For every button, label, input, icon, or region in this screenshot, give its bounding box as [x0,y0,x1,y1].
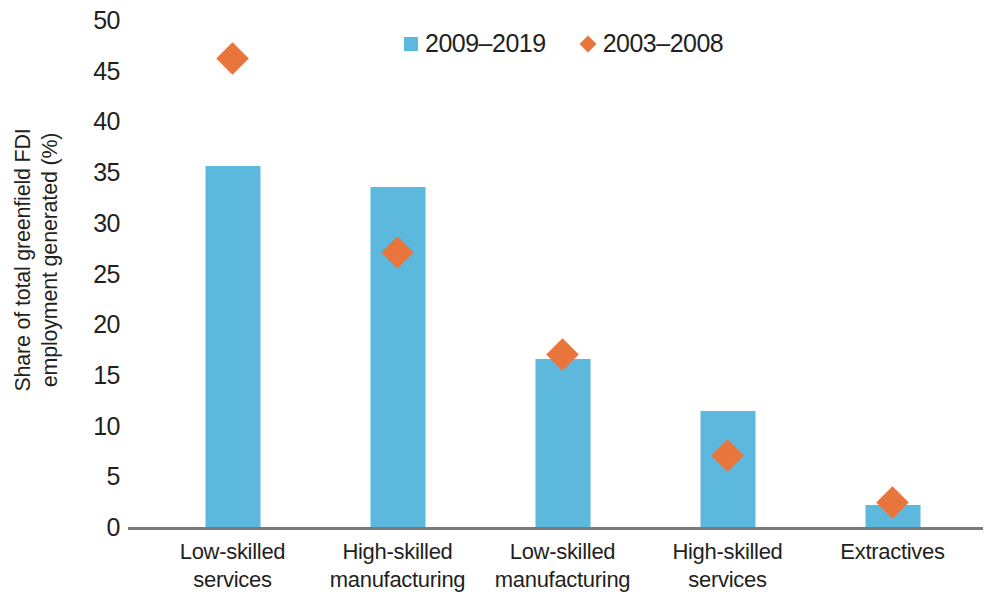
y-tick-25: 25 [64,262,120,287]
category-slot-high-skilled-manufacturing: High-skilled manufacturing [315,0,480,595]
bar-chart: Share of total greenfield FDI employment… [0,0,999,595]
y-tick-45: 45 [64,59,120,84]
y-axis-tick-labels: 50 45 40 35 30 25 20 15 10 5 0 [64,0,120,595]
y-tick-15: 15 [64,363,120,388]
y-tick-35: 35 [64,160,120,185]
y-tick-5: 5 [64,464,120,489]
y-tick-30: 30 [64,211,120,236]
diamond-2003-2008[interactable] [216,42,249,75]
plot-area: Low-skilled services High-skilled manufa… [150,0,975,595]
category-slot-extractives: Extractives [810,0,975,595]
x-tick-label-extractives: Extractives [793,538,993,566]
y-tick-10: 10 [64,414,120,439]
category-slot-high-skilled-services: High-skilled services [645,0,810,595]
x-tick-label-line-2: services [628,566,828,594]
bar-2009-2019[interactable] [205,166,260,527]
x-tick-label-line-1: Extractives [793,538,993,566]
bar-2009-2019[interactable] [535,359,590,527]
y-axis-title-line-1: Share of total greenfield FDI [10,128,37,391]
category-slot-low-skilled-manufacturing: Low-skilled manufacturing [480,0,645,595]
y-tick-50: 50 [64,8,120,33]
y-tick-20: 20 [64,312,120,337]
category-slot-low-skilled-services: Low-skilled services [150,0,315,595]
y-axis-title-line-2: employment generated (%) [37,133,64,388]
y-tick-0: 0 [64,515,120,540]
y-tick-40: 40 [64,109,120,134]
y-axis-title: Share of total greenfield FDI employment… [9,45,65,475]
